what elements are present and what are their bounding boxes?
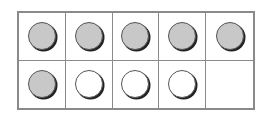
- frame-cell: [66, 61, 113, 109]
- filled-counter-icon: [28, 22, 56, 50]
- frame-cell: [19, 13, 66, 61]
- frame-cell: [66, 13, 113, 61]
- frame-cell: [159, 61, 206, 109]
- frame-cell: [206, 13, 253, 61]
- frame-cell: [206, 61, 253, 109]
- empty-counter-icon: [75, 70, 103, 98]
- frame-cell: [19, 61, 66, 109]
- empty-counter-icon: [168, 70, 196, 98]
- filled-counter-icon: [121, 22, 149, 50]
- frame-cell: [113, 61, 160, 109]
- ten-frame: [17, 11, 255, 110]
- filled-counter-icon: [28, 70, 56, 98]
- empty-counter-icon: [121, 70, 149, 98]
- filled-counter-icon: [216, 22, 244, 50]
- frame-cell: [159, 13, 206, 61]
- filled-counter-icon: [75, 22, 103, 50]
- frame-cell: [113, 13, 160, 61]
- filled-counter-icon: [168, 22, 196, 50]
